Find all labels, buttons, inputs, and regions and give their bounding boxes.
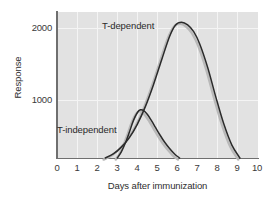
y-tick-label-2000: 2000 xyxy=(20,22,52,33)
x-tick-label-4: 4 xyxy=(127,162,147,173)
y-axis-title: Response xyxy=(12,38,23,118)
x-tick-label-2: 2 xyxy=(87,162,107,173)
x-tick-label-7: 7 xyxy=(187,162,207,173)
x-tick-label-0: 0 xyxy=(47,162,67,173)
x-tick-label-6: 6 xyxy=(167,162,187,173)
x-tick-label-3: 3 xyxy=(107,162,127,173)
x-tick-label-10: 10 xyxy=(247,162,267,173)
curve-shadow xyxy=(116,111,178,159)
x-axis-title: Days after immunization xyxy=(57,180,258,191)
annotation-t-independent: T-independent xyxy=(57,124,116,135)
immune-response-chart: 2000 1000 0 1 2 3 4 5 6 7 8 9 10 Respons… xyxy=(0,0,277,208)
y-tick-label-1000: 1000 xyxy=(20,94,52,105)
annotation-t-dependent: T-dependent xyxy=(102,20,154,31)
curve-shadow xyxy=(104,24,239,160)
x-tick-label-9: 9 xyxy=(227,162,247,173)
x-tick-label-5: 5 xyxy=(147,162,167,173)
x-tick-label-8: 8 xyxy=(207,162,227,173)
curve-shadow-group xyxy=(104,24,239,160)
x-tick-label-1: 1 xyxy=(67,162,87,173)
